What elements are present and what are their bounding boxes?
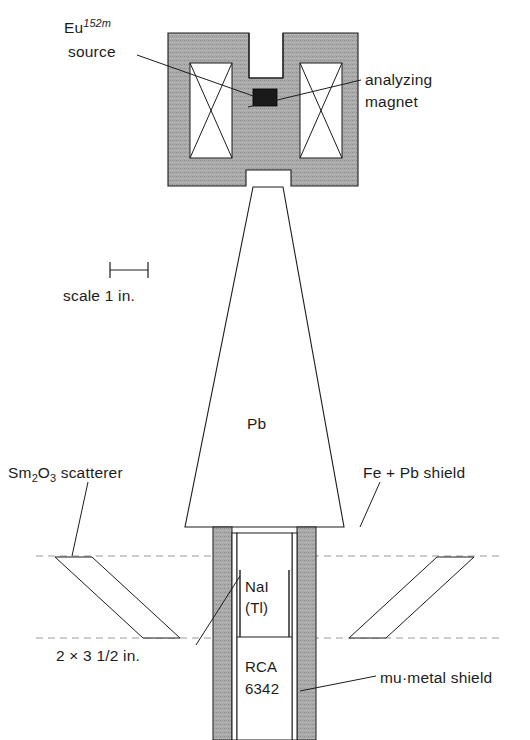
sm2o3-scatterer-label: Sm2O3 scatterer [8, 463, 123, 483]
pb-collimator-label: Pb [247, 414, 266, 434]
eu-element-symbol: Eu [64, 19, 83, 36]
eu-source-word-label: source [68, 42, 116, 62]
sm2o3-scatterer-right [349, 557, 474, 638]
apparatus-diagram: Eu152m source analyzing magnet scale 1 i… [0, 0, 530, 740]
leader-shield-right [360, 482, 380, 527]
magnet-pole-gap [249, 33, 283, 78]
sm2o3-prefix: Sm [8, 464, 32, 481]
crystal-dimensions-label: 2 × 3 1/2 in. [56, 646, 140, 666]
scale-bar [110, 262, 148, 278]
scale-bar-label: scale 1 in. [63, 286, 135, 306]
nai-crystal-label-line1: NaI [245, 577, 269, 597]
analyzing-magnet [168, 33, 358, 186]
leader-scatterer-left [72, 482, 88, 556]
fe-pb-shield-right [297, 527, 316, 740]
mu-metal-shield-label: mu·metal shield [380, 668, 492, 688]
nai-crystal-label-line2: (Tl) [245, 598, 268, 618]
fe-pb-shield-label: Fe + Pb shield [363, 463, 465, 483]
mu-metal-wall-right [292, 533, 297, 740]
sm2o3-mid: O [38, 464, 50, 481]
lead-collimator-cone [185, 187, 344, 527]
analyzing-magnet-label-line2: magnet [365, 92, 418, 112]
pmt-label-line1: RCA [245, 657, 277, 677]
detector-assembly [213, 527, 316, 740]
eu-mass-number: 152m [83, 17, 111, 29]
sm2o3-suffix: scatterer [56, 464, 123, 481]
eu-source-isotope-label: Eu152m [64, 18, 111, 38]
mu-metal-wall-left [232, 533, 237, 740]
sm2o3-scatterer-left [55, 557, 180, 638]
diagram-canvas [0, 0, 530, 740]
pb-cone-outline [185, 187, 344, 527]
fe-pb-shield-left [213, 527, 232, 740]
pmt-label-line2: 6342 [245, 679, 279, 699]
analyzing-magnet-label-line1: analyzing [365, 70, 432, 90]
